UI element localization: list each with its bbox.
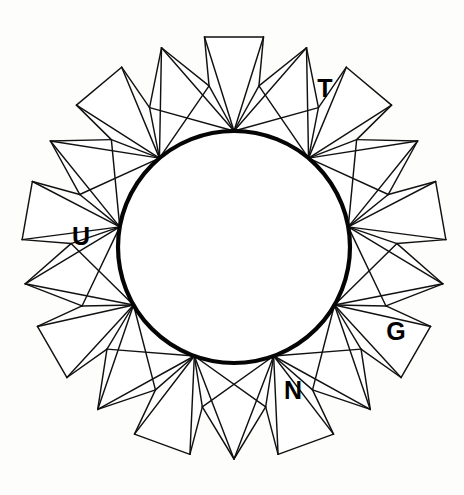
label-u: U — [72, 222, 90, 250]
outer-band-diagonal — [82, 305, 134, 306]
star-polygon-diagram: TUGN — [0, 0, 464, 495]
label-g: G — [386, 317, 405, 345]
inner-circle — [118, 131, 350, 363]
geometric-figure-canvas: TUGN — [0, 0, 464, 495]
label-t: T — [317, 74, 332, 102]
label-n: N — [284, 376, 302, 404]
outer-band-edge — [397, 240, 446, 244]
star-point-face — [194, 356, 273, 459]
star-point-edge — [334, 305, 386, 306]
